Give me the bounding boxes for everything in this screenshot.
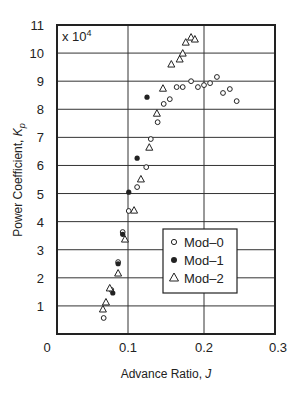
y-tick-label: 7 xyxy=(37,130,44,145)
data-point-filled-circle xyxy=(144,95,149,100)
y-multiplier-label: x 104 xyxy=(62,28,92,44)
data-point-open-triangle xyxy=(153,110,160,117)
data-point-open-circle xyxy=(189,79,194,84)
y-axis-label: Power Coefficient, Kp xyxy=(11,123,27,237)
x-tick-label: 0 xyxy=(43,340,50,355)
y-tick-label: 5 xyxy=(37,187,44,202)
open-circle-marker-icon xyxy=(171,239,176,244)
y-tick-label: 2 xyxy=(37,271,44,286)
y-tick-label: 9 xyxy=(37,74,44,89)
y-tick-label: 4 xyxy=(37,215,44,230)
data-point-open-circle xyxy=(180,85,185,90)
y-tick-label: 1 xyxy=(37,299,44,314)
y-axis-tick-labels: 1234567891011 xyxy=(30,18,44,314)
data-point-open-circle xyxy=(161,102,166,107)
y-tick-label: 6 xyxy=(37,158,44,173)
legend: Mod–0 Mod–1 Mod–2 xyxy=(163,229,237,293)
x-tick-label: 0.1 xyxy=(119,340,137,355)
filled-circle-marker-icon xyxy=(171,257,177,263)
y-tick-label: 10 xyxy=(30,46,44,61)
data-point-open-triangle xyxy=(102,298,109,305)
data-point-filled-circle xyxy=(126,190,131,195)
data-point-open-triangle xyxy=(115,270,122,277)
y-tick-label: 8 xyxy=(37,102,44,117)
data-point-open-circle xyxy=(101,316,106,321)
y-tick-label: 11 xyxy=(31,18,45,33)
data-point-open-triangle xyxy=(159,85,166,92)
data-point-open-circle xyxy=(234,99,239,104)
data-point-open-circle xyxy=(227,87,232,92)
data-point-open-circle xyxy=(202,83,207,88)
data-point-open-triangle xyxy=(168,61,175,68)
data-point-open-circle xyxy=(208,81,213,86)
data-point-open-circle xyxy=(135,185,140,190)
data-point-open-circle xyxy=(155,120,160,125)
data-point-open-triangle xyxy=(137,175,144,182)
data-point-open-triangle xyxy=(99,305,106,312)
x-tick-label: 0.2 xyxy=(195,340,213,355)
y-tick-label: 3 xyxy=(37,243,44,258)
x-axis-tick-labels: 00.10.20.3 xyxy=(43,340,287,355)
data-point-open-circle xyxy=(221,91,226,96)
data-point-open-circle xyxy=(144,165,149,170)
data-point-filled-circle xyxy=(135,156,140,161)
x-axis-label: Advance Ratio, J xyxy=(121,367,213,381)
data-point-open-triangle xyxy=(146,144,153,151)
data-point-open-circle xyxy=(174,85,179,90)
data-point-open-circle xyxy=(148,137,153,142)
data-point-open-circle xyxy=(167,97,172,102)
legend-label-mod-2: Mod–2 xyxy=(184,271,224,286)
data-point-filled-circle xyxy=(116,261,121,266)
data-point-open-triangle xyxy=(131,207,138,214)
data-point-open-circle xyxy=(196,85,201,90)
data-point-open-circle xyxy=(215,75,220,80)
legend-label-mod-0: Mod–0 xyxy=(184,235,224,250)
x-tick-label: 0.3 xyxy=(269,340,287,355)
power-coefficient-chart: 1234567891011 00.10.20.3 x 104 Advance R… xyxy=(0,0,300,393)
legend-label-mod-1: Mod–1 xyxy=(184,253,224,268)
